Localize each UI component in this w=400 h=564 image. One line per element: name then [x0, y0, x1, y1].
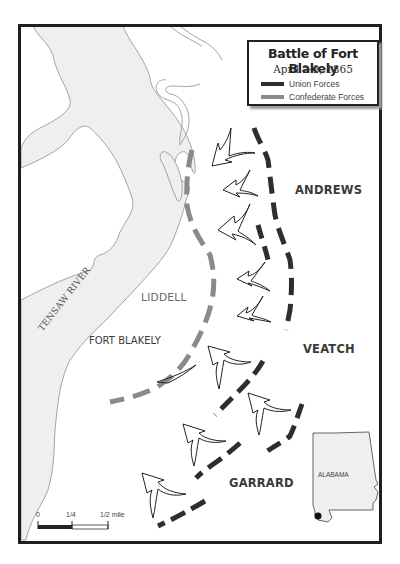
label-veatch: VEATCH: [303, 342, 355, 356]
label-garrard: GARRARD: [229, 476, 294, 490]
scale-label-half-mile: 1/2 mile: [100, 511, 125, 518]
confederate-swatch-icon: [261, 95, 284, 99]
map-legend: Battle of Fort Blakely April 2-9, 1865 U…: [247, 40, 379, 106]
label-andrews: ANDREWS: [295, 183, 362, 197]
label-liddell: LIDDELL: [141, 291, 187, 303]
legend-item-union: Union Forces: [261, 79, 340, 89]
battle-map: Battle of Fort Blakely April 2-9, 1865 U…: [0, 0, 400, 564]
scale-label-0: 0: [36, 511, 40, 518]
scale-label-quarter: 1/4: [66, 511, 76, 518]
label-fort-blakely: FORT BLAKELY: [89, 335, 161, 346]
legend-item-confederate: Confederate Forces: [261, 92, 364, 102]
map-date: April 2-9, 1865: [249, 63, 377, 75]
label-alabama: ALABAMA: [318, 471, 349, 478]
legend-label-confederate: Confederate Forces: [289, 92, 364, 102]
union-swatch-icon: [261, 82, 284, 86]
legend-label-union: Union Forces: [289, 79, 340, 89]
